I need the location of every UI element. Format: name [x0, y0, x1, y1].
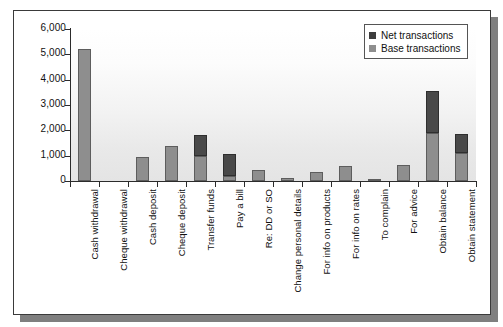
bar-column: [397, 165, 410, 181]
legend-label-net: Net transactions: [381, 30, 453, 41]
bar-segment-net: [426, 91, 439, 133]
bar-stack: [252, 170, 265, 181]
x-axis-category-label: Obtain balance: [437, 189, 448, 254]
bar-segment-net: [194, 135, 207, 156]
y-axis-tick-mark: [65, 156, 70, 157]
bar-column: [252, 170, 265, 181]
bar-segment-base: [397, 165, 410, 181]
y-axis-tick-mark: [65, 105, 70, 106]
base-swatch-icon: [369, 45, 376, 52]
x-axis-category-label: Cheque deposit: [176, 189, 187, 256]
bar-stack: [194, 135, 207, 181]
bar-segment-base: [310, 172, 323, 181]
bar-segment-base: [368, 179, 381, 181]
x-axis-tick-mark: [128, 182, 129, 187]
x-axis-tick-mark: [418, 182, 419, 187]
x-axis-tick-mark: [447, 182, 448, 187]
x-axis-tick-mark: [99, 182, 100, 187]
x-axis-tick-mark: [215, 182, 216, 187]
bar-column: [78, 49, 91, 181]
bar-segment-base: [252, 170, 265, 181]
legend-label-base: Base transactions: [381, 43, 461, 54]
bar-column: [223, 154, 236, 181]
y-axis-line: [70, 28, 71, 182]
bar-stack: [455, 134, 468, 181]
x-axis-tick-mark: [273, 182, 274, 187]
y-axis-tick-mark: [65, 80, 70, 81]
x-axis-tick-mark: [476, 182, 477, 187]
x-axis-category-label: Cheque withdrawal: [118, 189, 129, 271]
bar-segment-base: [339, 166, 352, 181]
x-axis-tick-mark: [186, 182, 187, 187]
y-axis-tick-label: 2,000: [40, 123, 66, 134]
legend-item-base: Base transactions: [369, 42, 461, 54]
net-swatch-icon: [369, 32, 376, 39]
bar-column: [165, 146, 178, 181]
bar-segment-base: [194, 156, 207, 181]
bar-stack: [223, 154, 236, 181]
x-axis-category-label: Change personal details: [292, 189, 303, 293]
x-axis-category-label: Transfer funds: [205, 189, 216, 251]
x-axis-category-label: Obtain statement: [466, 189, 477, 262]
bar-stack: [397, 165, 410, 181]
y-axis-tick-label: 3,000: [40, 98, 66, 109]
chart-legend: Net transactions Base transactions: [364, 24, 468, 59]
x-axis-tick-mark: [360, 182, 361, 187]
x-axis-category-label: Cash withdrawal: [89, 189, 100, 259]
x-axis-category-label: Pay a bill: [234, 189, 245, 228]
bar-column: [339, 166, 352, 181]
bar-column: [136, 157, 149, 181]
x-axis-tick-mark: [70, 182, 71, 187]
bar-stack: [339, 166, 352, 181]
x-axis-category-label: For info on products: [321, 189, 332, 275]
bar-column: [310, 172, 323, 181]
bar-stack: [281, 178, 294, 181]
bar-segment-base: [136, 157, 149, 181]
bar-column: [194, 135, 207, 181]
bar-segment-base: [165, 146, 178, 181]
bar-column: [368, 179, 381, 181]
bar-segment-base: [223, 176, 236, 181]
y-axis-tick-label: 0: [60, 174, 66, 185]
bar-segment-base: [426, 133, 439, 181]
x-axis-tick-mark: [389, 182, 390, 187]
x-axis-category-label: For info on rates: [350, 189, 361, 259]
x-axis-category-label: Cash deposit: [147, 189, 158, 245]
x-axis-tick-mark: [331, 182, 332, 187]
y-axis-tick-label: 1,000: [40, 149, 66, 160]
bar-column: [281, 178, 294, 181]
chart-figure-frame: 01,0002,0003,0004,0005,0006,000 Cash wit…: [13, 10, 491, 315]
y-axis-tick-mark: [65, 29, 70, 30]
legend-item-net: Net transactions: [369, 29, 461, 41]
bar-stack: [165, 146, 178, 181]
bar-stack: [78, 49, 91, 181]
bar-stack: [136, 157, 149, 181]
bar-stack: [426, 91, 439, 181]
x-axis-tick-mark: [302, 182, 303, 187]
x-axis-tick-mark: [244, 182, 245, 187]
bar-stack: [310, 172, 323, 181]
y-axis-tick-label: 6,000: [40, 22, 66, 33]
bar-segment-base: [281, 178, 294, 181]
bar-segment-net: [223, 154, 236, 176]
x-axis-category-label: Re: DD or SO: [263, 189, 274, 248]
bar-column: [455, 134, 468, 181]
bar-segment-base: [455, 153, 468, 181]
bar-column: [426, 91, 439, 181]
x-axis-category-label: To complain: [379, 189, 390, 240]
bar-segment-net: [455, 134, 468, 153]
y-axis-tick-label: 4,000: [40, 73, 66, 84]
bar-segment-base: [78, 49, 91, 181]
stacked-bar-chart: 01,0002,0003,0004,0005,0006,000 Cash wit…: [14, 11, 492, 316]
x-axis-tick-mark: [157, 182, 158, 187]
x-axis-category-label: For advice: [408, 189, 419, 234]
y-axis-tick-mark: [65, 54, 70, 55]
y-axis-tick-label: 5,000: [40, 47, 66, 58]
bar-stack: [368, 179, 381, 181]
y-axis-tick-mark: [65, 130, 70, 131]
